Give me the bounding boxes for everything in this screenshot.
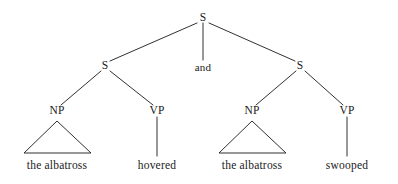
left-s-to-vp [110,71,153,105]
left-np-triangle [24,121,91,153]
left-s-to-np [61,71,101,105]
node-left-np: NP [49,105,64,117]
triangle-group [24,121,286,153]
node-right-vp: VP [339,105,354,117]
right-s-to-vp [305,71,343,105]
node-root-s: S [200,12,207,24]
root-to-right-s [209,23,295,61]
right-np-triangle [219,121,286,153]
edge-group [61,23,347,156]
terminal-right-vp-text: swooped [326,160,368,172]
right-s-to-np [256,71,296,105]
root-to-left-s [110,23,197,61]
node-right-np: NP [244,105,259,117]
terminal-left-np-text: the albatross [27,160,87,172]
terminal-left-vp-text: hovered [138,160,176,172]
node-right-s: S [297,60,304,72]
node-conjunction-and: and [195,62,211,73]
syntax-tree-diagram: S S and S NP VP NP VP the albatross hove… [0,0,398,184]
node-left-s: S [102,60,109,72]
terminal-right-np-text: the albatross [222,160,282,172]
node-left-vp: VP [149,105,164,117]
tree-edges-and-triangles [0,0,398,184]
